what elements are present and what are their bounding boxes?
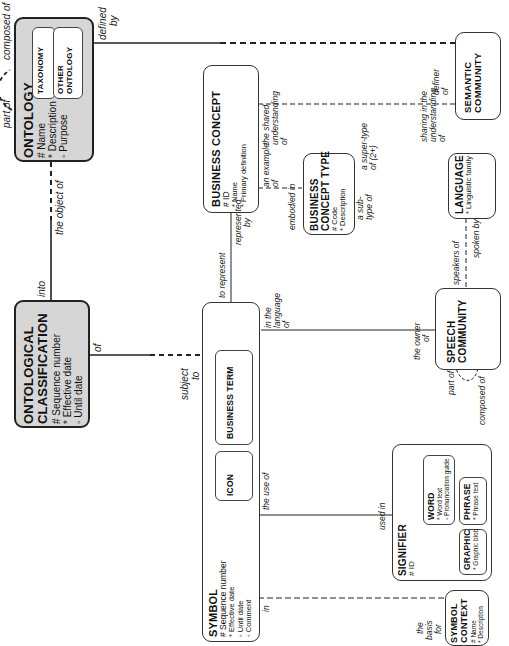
entity-semantic-community[interactable]: SEMANTIC COMMUNITY — [455, 32, 501, 120]
label-of: of — [282, 293, 291, 328]
label-language-speakers-of: speakers of — [452, 241, 461, 285]
speech-title-line1: SPEECH — [446, 300, 457, 363]
speech-title-line2: COMMUNITY — [457, 300, 468, 363]
label-understanding: understanding — [271, 91, 280, 145]
classification-title-line1: ONTOLOGICAL — [22, 313, 36, 424]
label-symbol-use-of: the use of — [262, 473, 271, 510]
subtype-business-term[interactable]: BUSINESS TERM — [215, 350, 253, 445]
context-attr-description: * Description — [477, 599, 484, 643]
classification-attr-seq: # Sequence number — [51, 313, 62, 424]
symbol-attr-comment: ◦ Comment — [245, 560, 253, 637]
label-signifier-used-in: used in — [378, 503, 387, 530]
label-of: of — [280, 91, 289, 145]
label-by: by — [109, 7, 120, 40]
label-ontology-part-of: part of — [2, 100, 13, 128]
label-symbol-subject-to: subject to — [180, 368, 201, 400]
bc-label-group: BUSINESS CONCEPT # ID * Name * Primary d… — [210, 91, 248, 207]
bc-attr-definition: * Primary definition — [240, 91, 248, 207]
word-attr-pronunciation: ◦ Pronunciation guide — [443, 458, 450, 520]
label-bc-represented-by: represented by — [234, 200, 252, 245]
entity-business-concept[interactable]: BUSINESS CONCEPT # ID * Name * Primary d… — [203, 65, 259, 213]
label-context-basis-for: the basis for — [416, 620, 443, 640]
label-symbol-to-represent: to represent — [218, 253, 227, 298]
context-title-line2: CONTEXT — [460, 599, 470, 643]
phrase-title: PHRASE — [463, 483, 472, 520]
phrase-label-group: PHRASE * Phrase text — [463, 483, 479, 520]
label-bct-embodied-in: embodied in — [288, 184, 297, 230]
label-of: of — [438, 88, 447, 142]
subtype-graphic[interactable]: GRAPHIC * Graphic blob — [459, 529, 487, 575]
label-bc-example-of: an example of — [262, 143, 280, 187]
entity-symbol[interactable]: SYMBOL # Sequence number * Effective dat… — [202, 302, 260, 642]
label-speech-composed-of: composed of — [478, 376, 487, 425]
context-label-group: SYMBOL CONTEXT # Name * Description — [450, 599, 484, 643]
word-attr-text: * Word text — [436, 458, 443, 520]
taxonomy-title: TAXONOMY — [37, 47, 46, 94]
other-ontology-title: OTHER ONTOLOGY — [57, 44, 75, 94]
graphic-title: GRAPHIC — [463, 529, 472, 570]
language-attr-family: * Linguistic family — [465, 155, 473, 214]
entity-signifier[interactable]: SIGNIFIER # ID WORD * Word text ◦ Pronun… — [392, 444, 492, 581]
label-symbol-in: in — [262, 605, 271, 612]
word-label-group: WORD * Word text ◦ Pronunciation guide — [427, 458, 451, 520]
entity-ontology[interactable]: ONTOLOGY # Name * Description ◦ Purpose … — [14, 17, 94, 162]
classification-label-group: ONTOLOGICAL CLASSIFICATION # Sequence nu… — [22, 313, 84, 424]
label-subject: subject — [180, 368, 191, 400]
classification-attr-effective: * Effective date — [62, 313, 73, 424]
subtype-word[interactable]: WORD * Word text ◦ Pronunciation guide — [423, 455, 455, 525]
business-term-title: BUSINESS TERM — [226, 367, 235, 440]
label-bct-supertype: a super-type of (2+) — [360, 123, 378, 170]
label-speech-part-of: part of — [447, 371, 456, 395]
entity-language[interactable]: LANGUAGE * Linguistic family — [448, 153, 496, 219]
language-label-group: LANGUAGE * Linguistic family — [454, 155, 473, 214]
entity-symbol-context[interactable]: SYMBOL CONTEXT # Name * Description — [445, 590, 489, 646]
label-speech-owner-of: the owner of — [413, 323, 431, 360]
bct-label-group: BUSINESS CONCEPT TYPE # Code * Descripti… — [309, 151, 348, 231]
phrase-attr-text: * Phrase text — [472, 483, 479, 520]
bct-attr-description: * Description — [339, 151, 347, 231]
label-ontology-defined-by: defined by — [98, 7, 119, 40]
label-bct-subtype: a sub- type of — [356, 194, 374, 220]
signifier-attr-id: # ID — [408, 524, 417, 576]
label-language-spoken-by: spoken by — [472, 219, 481, 258]
entity-ontological-classification[interactable]: ONTOLOGICAL CLASSIFICATION # Sequence nu… — [14, 300, 90, 428]
label-semcom-sharing: sharing in the understanding of — [420, 88, 447, 142]
label-symbol-language-of: in the language of — [264, 293, 291, 328]
subtype-phrase[interactable]: PHRASE * Phrase text — [459, 477, 487, 525]
icon-title: ICON — [226, 474, 235, 496]
graphic-attr-blob: * Graphic blob — [472, 529, 479, 570]
label-classification-into: into — [37, 281, 48, 297]
bct-title-line1: BUSINESS — [309, 151, 320, 231]
subtype-icon[interactable]: ICON — [215, 451, 253, 501]
label-ontology-composed-of: composed of — [2, 3, 13, 60]
label-classification-of: of — [93, 344, 104, 352]
subtype-other-ontology[interactable]: OTHER ONTOLOGY — [53, 27, 83, 99]
speech-label-group: SPEECH COMMUNITY — [446, 300, 468, 363]
label-of-2plus: of (2+) — [369, 123, 378, 170]
entity-speech-community[interactable]: SPEECH COMMUNITY — [435, 288, 501, 370]
context-attr-name: # Name — [470, 599, 477, 643]
semcom-label-group: SEMANTIC COMMUNITY — [463, 53, 484, 113]
label-of: of — [271, 143, 280, 187]
label-for: for — [434, 620, 443, 640]
classification-title-line2: CLASSIFICATION — [36, 313, 50, 424]
signifier-label-group: SIGNIFIER # ID — [397, 524, 417, 576]
graphic-label-group: GRAPHIC * Graphic blob — [463, 529, 479, 570]
label-by: by — [243, 200, 252, 245]
label-defined: defined — [98, 7, 109, 40]
label-understanding: understanding — [429, 88, 438, 142]
label-type-of: type of — [365, 194, 374, 220]
entity-business-concept-type[interactable]: BUSINESS CONCEPT TYPE # Code * Descripti… — [303, 153, 355, 235]
label-ontology-object-of: the object of — [55, 181, 66, 235]
symbol-label-group: SYMBOL # Sequence number * Effective dat… — [207, 560, 253, 637]
label-to: to — [191, 368, 202, 400]
bc-title: BUSINESS CONCEPT — [210, 91, 222, 207]
semcom-title-line2: COMMUNITY — [473, 53, 483, 113]
label-bc-shared-understanding: the shared understanding of — [262, 91, 289, 145]
label-of: of — [422, 323, 431, 360]
word-title: WORD — [427, 458, 436, 520]
classification-attr-until: ◦ Until date — [73, 313, 84, 424]
